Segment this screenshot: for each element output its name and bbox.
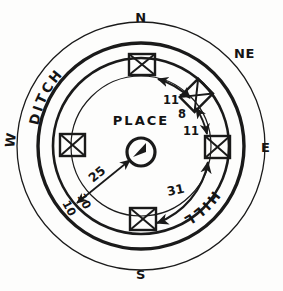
arc-label-ne-lower: 11 [183,124,199,138]
station-marker-west[interactable] [60,134,85,156]
compass-label-east: E [261,140,270,155]
ditch-label: DITCH [26,65,67,126]
station-marker-east[interactable] [205,136,230,158]
survey-diagram: 25 [0,0,283,291]
compass-label-west: W [2,132,19,149]
compass-label-south: S [136,267,146,282]
arc-label-ne-middle: 8 [178,107,186,121]
center-arrowhead-icon [133,143,146,157]
radial-dimension-label: 25 [85,163,108,186]
station-marker-south[interactable] [130,208,156,230]
arc-label-ne-upper: 11 [163,93,179,107]
arc-label-south: 31 [166,181,186,199]
compass-label-north: N [135,10,146,25]
compass-label-northeast: NE [234,46,255,61]
survey-diagram-canvas: 25 [0,0,283,291]
hill-label: HILL [180,188,224,230]
place-label: PLACE [113,113,169,128]
